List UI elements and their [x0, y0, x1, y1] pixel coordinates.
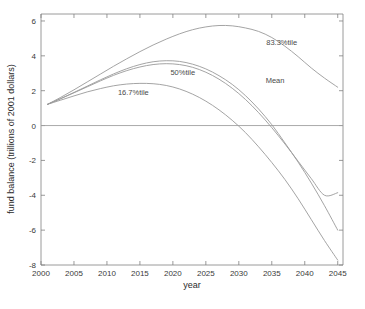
y-tick-label: -2	[29, 156, 37, 165]
fund-balance-line-chart: 6420-2-4-6-8 200020052010201520202025203…	[0, 0, 365, 309]
series-label: 83.3%tile	[266, 38, 297, 47]
x-tick-label: 2005	[65, 269, 83, 278]
y-tick-label: -4	[29, 191, 37, 200]
x-tick-label: 2030	[230, 269, 248, 278]
figure-container: 6420-2-4-6-8 200020052010201520202025203…	[0, 0, 365, 309]
x-axis-title: year	[183, 280, 201, 290]
x-axis-tick-labels: 2000200520102015202020252030203520402045	[32, 269, 347, 278]
x-tick-label: 2020	[164, 269, 182, 278]
series-curve	[48, 61, 338, 230]
y-axis-ticks	[41, 21, 343, 265]
series-curve	[48, 83, 338, 260]
x-tick-label: 2025	[197, 269, 215, 278]
x-tick-label: 2015	[131, 269, 149, 278]
y-tick-label: 0	[32, 122, 37, 131]
series-label: Mean	[266, 76, 285, 85]
x-tick-label: 2010	[98, 269, 116, 278]
x-tick-label: 2035	[263, 269, 281, 278]
y-axis-title: fund balance (trillions of 2001 dollars)	[6, 64, 16, 214]
series-curve	[48, 64, 338, 196]
y-axis-tick-labels: 6420-2-4-6-8	[29, 17, 37, 270]
y-tick-label: 4	[32, 52, 37, 61]
series-label: 16.7%tile	[118, 88, 149, 97]
caption-strip	[0, 299, 365, 309]
y-tick-label: 6	[32, 17, 37, 26]
series-annotations: 83.3%tileMean50%tile16.7%tile	[118, 38, 297, 97]
x-axis-ticks	[41, 14, 338, 265]
x-tick-label: 2000	[32, 269, 50, 278]
series-label: 50%tile	[170, 68, 195, 77]
x-tick-label: 2045	[329, 269, 347, 278]
series-curves	[48, 25, 338, 260]
y-tick-label: -6	[29, 226, 37, 235]
axes	[41, 14, 343, 265]
x-tick-label: 2040	[296, 269, 314, 278]
y-tick-label: 2	[32, 87, 37, 96]
